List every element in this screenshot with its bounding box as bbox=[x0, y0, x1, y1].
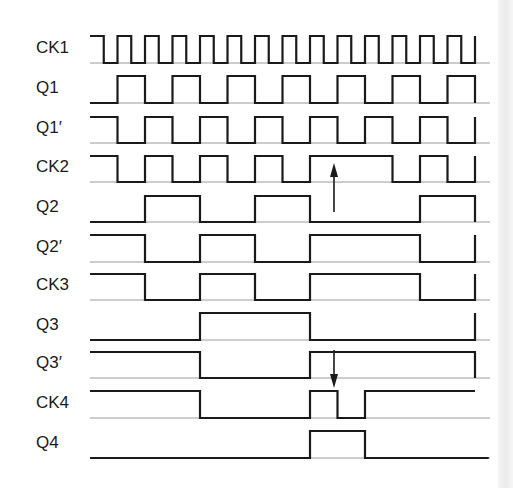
waveform-ck4 bbox=[90, 391, 475, 418]
waveform-q2 bbox=[90, 196, 475, 222]
waveform-q3-prime bbox=[90, 352, 475, 378]
waveform-ck1 bbox=[90, 36, 475, 63]
down-arrow-icon bbox=[330, 350, 338, 388]
waveform-ck3 bbox=[90, 274, 475, 300]
waveform-q1-prime bbox=[90, 117, 475, 143]
waveform-q3 bbox=[90, 313, 475, 340]
up-arrow-icon bbox=[330, 163, 338, 212]
timing-waveforms bbox=[0, 0, 513, 488]
waveform-q2-prime bbox=[90, 235, 475, 262]
waveform-ck2 bbox=[90, 156, 475, 182]
waveform-q4 bbox=[90, 431, 489, 458]
waveform-q1 bbox=[90, 76, 475, 103]
